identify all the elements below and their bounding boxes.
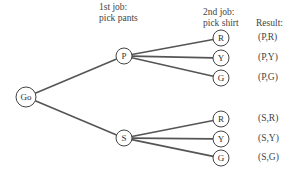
edge-p-to-y	[132, 56, 213, 58]
node-s-g: G	[213, 150, 229, 166]
first-job-header: 1st job: pick pants	[99, 2, 138, 24]
node-label: G	[218, 73, 225, 83]
node-label: Y	[218, 53, 225, 63]
result-label: (S,R)	[258, 113, 278, 123]
result-label: (P,Y)	[258, 52, 278, 62]
second-job-line2: pick shirt	[203, 18, 239, 29]
node-label: G	[218, 153, 225, 163]
node-s-r: R	[213, 111, 229, 127]
edge-go-to-s	[35, 101, 116, 135]
tree-diagram: GoPSRYGRYG 1st job: pick pants 2nd job: …	[0, 0, 295, 179]
edge-s-to-y	[132, 138, 213, 139]
node-label: Go	[21, 92, 32, 102]
first-job-line1: 1st job:	[99, 2, 138, 13]
node-p-y: Y	[213, 50, 229, 66]
result-header: Result:	[256, 18, 283, 29]
node-s-y: Y	[213, 131, 229, 147]
edge-p-to-g	[132, 58, 213, 76]
second-job-line1: 2nd job:	[203, 7, 239, 18]
node-label: S	[121, 133, 126, 143]
edge-s-to-g	[132, 140, 213, 157]
node-label: Y	[218, 134, 225, 144]
edge-go-to-p	[35, 59, 116, 93]
result-label: (S,G)	[258, 152, 279, 162]
node-p: P	[116, 48, 132, 64]
node-p-r: R	[213, 30, 229, 46]
result-label: (P,R)	[258, 32, 277, 42]
edge-p-to-r	[132, 39, 213, 54]
node-p-g: G	[213, 70, 229, 86]
second-job-header: 2nd job: pick shirt	[203, 7, 239, 29]
result-label: (P,G)	[258, 72, 278, 82]
result-label: (S,Y)	[258, 133, 279, 143]
node-go: Go	[16, 87, 36, 107]
edge-s-to-r	[132, 121, 213, 137]
node-label: R	[218, 33, 224, 43]
node-label: P	[121, 51, 126, 61]
node-label: R	[218, 114, 224, 124]
tree-edges-and-nodes: GoPSRYGRYG	[0, 0, 295, 179]
node-s: S	[116, 130, 132, 146]
first-job-line2: pick pants	[99, 13, 138, 24]
